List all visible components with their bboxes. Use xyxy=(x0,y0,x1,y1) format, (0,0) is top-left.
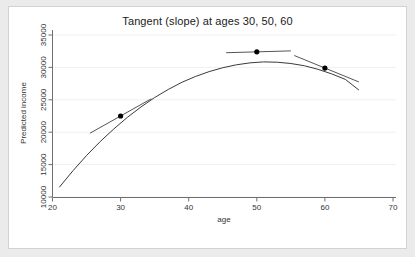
y-tick-label: 35000 xyxy=(39,23,48,46)
gridlines-group xyxy=(53,35,397,197)
fit-curve-line xyxy=(59,62,359,187)
y-tick-label: 30000 xyxy=(39,56,48,79)
y-tick-label: 25000 xyxy=(39,88,48,111)
plot-frame xyxy=(53,30,397,198)
data-point-markers xyxy=(118,49,328,118)
data-point-marker xyxy=(118,113,123,118)
x-tick-label: 40 xyxy=(184,203,193,212)
y-tick-label: 15000 xyxy=(39,153,48,176)
chart-figure: Tangent (slope) at ages 30, 50, 60 20304… xyxy=(0,0,415,257)
data-point-marker xyxy=(322,65,327,70)
y-tick-label: 10000 xyxy=(39,185,48,208)
x-tick-label: 70 xyxy=(389,203,398,212)
x-tick-label: 30 xyxy=(116,203,125,212)
y-axis-title: Predicted income xyxy=(19,82,28,144)
data-point-marker xyxy=(254,49,259,54)
x-tick-label: 20 xyxy=(48,203,57,212)
x-axis-ticks: 203040506070 xyxy=(48,198,398,213)
y-tick-label: 20000 xyxy=(39,121,48,144)
x-tick-label: 60 xyxy=(320,203,329,212)
x-tick-label: 50 xyxy=(252,203,261,212)
chart-canvas: 203040506070 100001500020000250003000035… xyxy=(0,0,415,257)
tangent-lines-group xyxy=(90,51,359,133)
y-axis-ticks: 100001500020000250003000035000 xyxy=(39,23,52,208)
x-axis-title: age xyxy=(217,215,231,224)
